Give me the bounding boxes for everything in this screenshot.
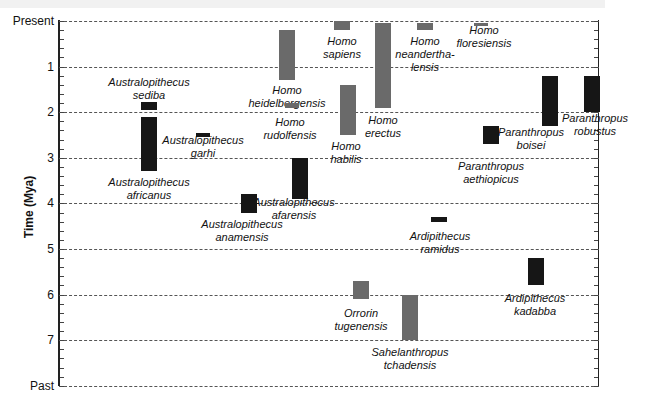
minor-tick [60, 258, 64, 259]
minor-tick [60, 57, 64, 58]
species-label-sahelanthropus-tchadensis: Sahelanthropustchadensis [371, 346, 448, 372]
minor-tick [60, 349, 64, 350]
minor-tick [594, 358, 598, 359]
minor-tick [60, 331, 64, 332]
gridline [59, 249, 599, 250]
gridline [59, 340, 599, 341]
range-bar-australopithecus-africanus [141, 117, 157, 172]
minor-tick [60, 158, 64, 159]
minor-tick [60, 39, 64, 40]
minor-tick [60, 130, 64, 131]
gridline [59, 21, 599, 22]
range-bar-paranthropus-boisei [542, 76, 558, 126]
range-bar-paranthropus-aethiopicus [483, 126, 499, 144]
y-tick-label: 5 [4, 242, 54, 256]
minor-tick [60, 112, 64, 113]
species-label-homo-sapiens: Homosapiens [323, 35, 361, 61]
range-bar-homo-neanderthalensis [417, 23, 433, 30]
species-label-paranthropus-aethiopicus: Paranthropusaethiopicus [458, 160, 524, 186]
range-bar-sahelanthropus-tchadensis [402, 295, 418, 341]
minor-tick [594, 386, 598, 387]
minor-tick [60, 368, 64, 369]
y-tick-label: 4 [4, 196, 54, 210]
species-label-homo-floresiensis: Homofloresiensis [456, 24, 511, 50]
range-bar-homo-rudolfensis [285, 103, 299, 108]
species-label-homo-erectus: Homoerectus [365, 114, 401, 140]
minor-tick [594, 295, 598, 296]
species-label-homo-rudolfensis: Homorudolfensis [263, 116, 316, 142]
minor-tick [594, 57, 598, 58]
y-tick-label: 1 [4, 60, 54, 74]
minor-tick [594, 340, 598, 341]
minor-tick [594, 194, 598, 195]
species-label-australopithecus-anamensis: Australopithecusanamensis [201, 218, 282, 244]
minor-tick [594, 276, 598, 277]
gridline [59, 112, 599, 113]
minor-tick [594, 213, 598, 214]
species-label-australopithecus-sediba: Australopithecussediba [108, 76, 189, 102]
minor-tick [60, 304, 64, 305]
minor-tick [594, 231, 598, 232]
range-bar-homo-habilis [340, 85, 356, 135]
minor-tick [594, 313, 598, 314]
minor-tick [60, 295, 64, 296]
y-tick-label: 3 [4, 151, 54, 165]
minor-tick [594, 30, 598, 31]
minor-tick [594, 258, 598, 259]
minor-tick [60, 222, 64, 223]
minor-tick [594, 285, 598, 286]
y-tick-label: Past [4, 379, 54, 393]
minor-tick [60, 240, 64, 241]
y-tick-label: 6 [4, 288, 54, 302]
minor-tick [594, 349, 598, 350]
species-label-homo-habilis: Homohabilis [330, 140, 361, 166]
minor-tick [594, 158, 598, 159]
minor-tick [60, 85, 64, 86]
range-bar-ardipithecus-kadabba [528, 258, 544, 285]
minor-tick [60, 121, 64, 122]
minor-tick [594, 185, 598, 186]
minor-tick [594, 167, 598, 168]
minor-tick [594, 21, 598, 22]
range-bar-paranthropus-robustus [584, 76, 600, 112]
minor-tick [594, 304, 598, 305]
hominin-timeline-chart: Time (Mya) Present1234567PastHomoheidelb… [0, 0, 649, 411]
range-bar-homo-sapiens [334, 21, 350, 30]
species-label-ardipithecus-ramidus: Ardipithecusramidus [410, 230, 471, 256]
minor-tick [60, 176, 64, 177]
minor-tick [594, 140, 598, 141]
range-bar-australopithecus-sediba [141, 102, 157, 110]
minor-tick [60, 322, 64, 323]
y-tick-label: 7 [4, 333, 54, 347]
minor-tick [60, 285, 64, 286]
minor-tick [60, 203, 64, 204]
species-label-paranthropus-boisei: Paranthropusboisei [498, 126, 564, 152]
minor-tick [60, 21, 64, 22]
species-label-homo-neanderthalensis: Homoneandertha-lensis [395, 35, 454, 74]
minor-tick [594, 176, 598, 177]
minor-tick [594, 39, 598, 40]
minor-tick [60, 386, 64, 387]
range-bar-ardipithecus-ramidus [431, 217, 447, 222]
minor-tick [60, 149, 64, 150]
minor-tick [594, 331, 598, 332]
minor-tick [60, 167, 64, 168]
minor-tick [60, 231, 64, 232]
gridline [59, 386, 599, 387]
minor-tick [60, 249, 64, 250]
range-bar-australopithecus-afarensis [292, 158, 308, 199]
minor-tick [594, 203, 598, 204]
species-label-australopithecus-garhi: Australopithecusgarhi [162, 134, 243, 160]
species-label-australopithecus-africanus: Australopithecusafricanus [108, 176, 189, 202]
species-label-orrorin-tugenensis: Orrorintugenensis [334, 307, 387, 333]
minor-tick [60, 94, 64, 95]
minor-tick [594, 48, 598, 49]
minor-tick [60, 358, 64, 359]
species-label-paranthropus-robustus: Paranthropusrobustus [562, 112, 628, 138]
range-bar-homo-erectus [375, 23, 391, 107]
y-tick-label: Present [4, 14, 54, 28]
minor-tick [60, 213, 64, 214]
minor-tick [60, 30, 64, 31]
minor-tick [594, 267, 598, 268]
minor-tick [60, 313, 64, 314]
